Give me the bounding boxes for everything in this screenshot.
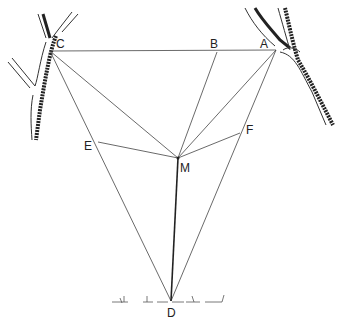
label-A: A <box>260 38 268 50</box>
right-tree-icon <box>245 8 333 125</box>
label-D: D <box>167 307 176 319</box>
segment-CM <box>50 51 178 158</box>
diagram-canvas: C B A E F M D <box>0 0 348 321</box>
segment-FM <box>178 133 240 158</box>
label-C: C <box>56 38 65 50</box>
left-tree-icon <box>8 12 78 140</box>
segment-CD <box>50 51 171 301</box>
segment-CA <box>50 50 276 51</box>
segment-BM <box>178 52 217 158</box>
ground-grass-icon <box>112 295 224 303</box>
label-B: B <box>210 38 218 50</box>
segment-AD <box>171 50 276 301</box>
point-M <box>177 157 180 160</box>
construction-lines <box>50 50 276 301</box>
segment-EM <box>98 142 178 158</box>
diagram-svg <box>0 0 348 321</box>
label-M: M <box>180 162 190 174</box>
segment-AM <box>178 50 276 158</box>
label-F: F <box>246 124 253 136</box>
label-E: E <box>84 140 92 152</box>
segment-MD <box>171 158 178 301</box>
